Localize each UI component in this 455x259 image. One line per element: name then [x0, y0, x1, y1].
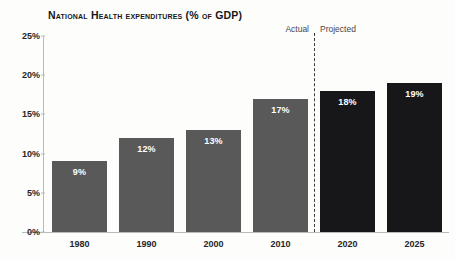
y-axis-tick-mark: [41, 75, 45, 76]
phase-divider-line: [314, 33, 315, 232]
y-axis-tick-label: 25%: [22, 31, 40, 41]
y-axis-line: [43, 36, 44, 232]
x-axis-tick-label-2000: 2000: [186, 239, 241, 249]
y-axis-tick-label: 0%: [27, 227, 40, 237]
bar-value-label: 19%: [387, 89, 442, 99]
y-axis-tick-mark: [41, 192, 45, 193]
bar-value-label: 18%: [320, 97, 375, 107]
actual-label: Actual: [254, 24, 309, 34]
x-axis-tick-label-2010: 2010: [253, 239, 308, 249]
bar-1980[interactable]: 9%: [52, 161, 107, 232]
y-axis-tick-label: 15%: [22, 109, 40, 119]
y-axis-tick-mark: [41, 153, 45, 154]
bar-value-label: 17%: [253, 105, 308, 115]
y-axis-tick-mark: [41, 114, 45, 115]
bar-value-label: 12%: [119, 144, 174, 154]
y-axis-tick-label: 5%: [27, 188, 40, 198]
x-axis-tick-label-2025: 2025: [387, 239, 442, 249]
bar-2020[interactable]: 18%: [320, 91, 375, 232]
bar-1990[interactable]: 12%: [119, 138, 174, 232]
x-axis-tick-label-1990: 1990: [119, 239, 174, 249]
bar-value-label: 13%: [186, 136, 241, 146]
x-axis-tick-label-2020: 2020: [320, 239, 375, 249]
bar-2000[interactable]: 13%: [186, 130, 241, 232]
x-axis-tick-label-1980: 1980: [52, 239, 107, 249]
projected-label: Projected: [320, 24, 390, 34]
bar-2010[interactable]: 17%: [253, 99, 308, 232]
bar-value-label: 9%: [52, 167, 107, 177]
chart-container: National Health expenditures (% of GDP) …: [0, 0, 455, 259]
bar-2025[interactable]: 19%: [387, 83, 442, 232]
x-axis-line: [22, 232, 449, 233]
y-axis-tick-label: 20%: [22, 70, 40, 80]
chart-title: National Health expenditures (% of GDP): [48, 9, 242, 21]
y-axis-tick-mark: [41, 36, 45, 37]
y-axis-tick-mark: [41, 232, 45, 233]
y-axis-tick-label: 10%: [22, 149, 40, 159]
